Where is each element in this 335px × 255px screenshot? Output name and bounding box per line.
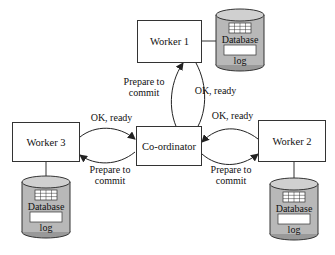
database-1-label: Database (216, 34, 264, 45)
two-phase-commit-diagram: Worker 1 Worker 3 Co-ordinator Worker 2 … (0, 0, 335, 255)
database-3-label: Database (22, 201, 70, 212)
worker-2-node: Worker 2 (258, 120, 326, 162)
coordinator-label: Co-ordinator (142, 141, 196, 152)
w2-prepare-label: Prepare to commit (205, 164, 257, 186)
w3-prepare-label: Prepare to commit (84, 164, 136, 186)
w1-prepare-label: Prepare to commit (118, 76, 170, 98)
database-2-label: Database (270, 203, 318, 214)
database-3-log-label: log (22, 222, 70, 233)
database-1-log-label: log (216, 55, 264, 66)
w1-ok-label: OK, ready (188, 85, 243, 96)
worker-3-node: Worker 3 (12, 122, 80, 162)
w3-ok-label: OK, ready (84, 112, 139, 123)
database-2-log-label: log (270, 224, 318, 235)
worker-1-label: Worker 1 (150, 36, 189, 47)
coordinator-node: Co-ordinator (136, 126, 202, 166)
worker-3-label: Worker 3 (26, 137, 65, 148)
worker-1-node: Worker 1 (137, 20, 202, 63)
w2-ok-label: OK, ready (205, 110, 260, 121)
worker-2-label: Worker 2 (272, 136, 311, 147)
